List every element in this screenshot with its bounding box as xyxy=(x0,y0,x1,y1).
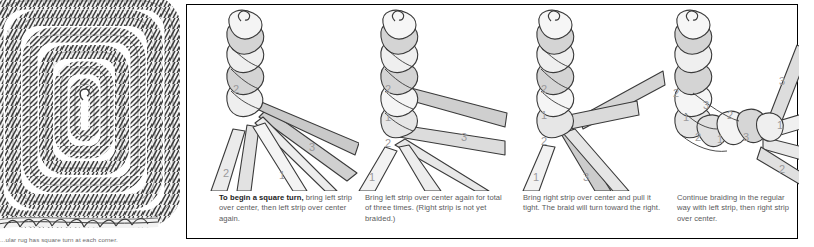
braided-rug-figure: ...ular rug has square turn at each corn… xyxy=(0,0,184,247)
strand-label: 1 xyxy=(541,109,547,121)
rug-rings xyxy=(0,1,173,219)
strand-label: 3 xyxy=(779,75,785,87)
strand-label: 2 xyxy=(233,83,239,95)
step-1-caption: To begin a square turn, bring left strip… xyxy=(219,193,355,224)
braid-steps-panel: 2 3 2 1 To begin a square turn, bring le… xyxy=(186,4,798,239)
strand-label: 2 xyxy=(385,137,391,149)
step-3-caption: Bring right strip over center and pull i… xyxy=(523,193,665,214)
strand-label: 2 xyxy=(223,167,229,179)
strand-label: 3 xyxy=(461,131,467,143)
strand-label: 2 xyxy=(541,83,547,95)
step-2-illustration: 2 1 2 3 1 xyxy=(355,5,511,191)
step-2-caption: Bring left strip over center again for t… xyxy=(365,193,507,224)
strand-label: 3 xyxy=(583,171,589,183)
step-4-caption: Continue braiding in the regular way wit… xyxy=(677,193,795,224)
step-3: 2 1 2 1 3 Bring right strip over center … xyxy=(513,5,669,238)
page-root: ...ular rug has square turn at each corn… xyxy=(0,0,814,247)
step-1-illustration: 2 3 2 1 xyxy=(197,5,359,191)
step-2: 2 1 2 3 1 Bring left strip over center a… xyxy=(355,5,511,238)
strand-label: 2 xyxy=(541,135,547,147)
step-1: 2 3 2 1 To begin a square turn, bring le… xyxy=(197,5,359,238)
steps-row: 2 3 2 1 To begin a square turn, bring le… xyxy=(187,5,797,238)
strand-label: 2 xyxy=(727,109,733,121)
strand-label: 1 xyxy=(777,119,783,131)
strand-label: 1 xyxy=(369,171,375,183)
step-4: 2 3 1 2 2 1 3 3 1 2 Continue braiding in… xyxy=(669,5,799,238)
step-1-lead: To begin a square turn, xyxy=(219,193,304,202)
rug-braid-tail xyxy=(0,218,158,228)
strand-label: 3 xyxy=(703,99,709,111)
braided-rug-illustration xyxy=(0,0,180,232)
strand-label: 1 xyxy=(279,169,285,181)
strand-label: 1 xyxy=(533,171,539,183)
strand-label: 1 xyxy=(683,111,689,123)
rug-caption: ...ular rug has square turn at each corn… xyxy=(0,236,184,244)
step-3-illustration: 2 1 2 1 3 xyxy=(513,5,669,191)
step-4-illustration: 2 3 1 2 2 1 3 3 1 2 xyxy=(669,5,799,191)
strand-label: 2 xyxy=(779,163,785,175)
strand-label: 2 xyxy=(695,131,701,143)
strand-label: 1 xyxy=(717,133,723,145)
strand-label: 2 xyxy=(673,87,679,99)
strand-label: 2 xyxy=(385,83,391,95)
strand-label: 3 xyxy=(743,131,749,143)
strand-label: 1 xyxy=(385,111,391,123)
strand-label: 3 xyxy=(309,141,315,153)
